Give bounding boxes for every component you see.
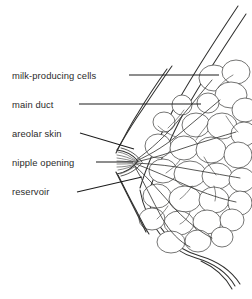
label-main-duct: main duct <box>12 99 54 110</box>
leader-reservoir <box>77 177 142 192</box>
breast-anatomy-diagram: milk-producing cells main duct areolar s… <box>0 0 252 299</box>
label-nipple-opening: nipple opening <box>12 157 74 168</box>
label-group: milk-producing cells main duct areolar s… <box>12 70 97 197</box>
label-milk-producing-cells: milk-producing cells <box>12 70 97 81</box>
label-areolar-skin: areolar skin <box>12 128 62 139</box>
label-reservoir: reservoir <box>12 186 49 197</box>
